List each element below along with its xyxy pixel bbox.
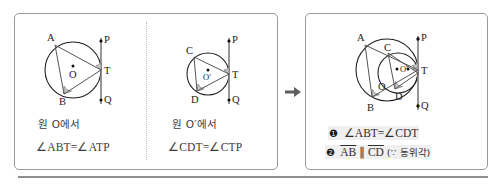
center-dot-o-prime bbox=[396, 68, 399, 71]
parallel-symbol: ∥ bbox=[359, 146, 365, 158]
caption-mid-line2: ∠CDT=∠CTP bbox=[168, 140, 242, 154]
arrow-right-icon bbox=[285, 86, 302, 98]
point-dot-p bbox=[227, 39, 230, 42]
label-a: A bbox=[357, 32, 365, 43]
label-q: Q bbox=[104, 94, 112, 105]
chord-at bbox=[55, 45, 101, 70]
label-c: C bbox=[384, 42, 391, 53]
caption-mid-line1-text: 원 O′에서 bbox=[172, 118, 217, 130]
bullet-2: ❷ bbox=[326, 147, 335, 158]
conclusion-2: ❷ AB ∥ CD (∵ 동위각) bbox=[325, 145, 431, 159]
label-t: T bbox=[232, 69, 239, 80]
label-center-o-prime: O′ bbox=[400, 64, 408, 74]
label-t: T bbox=[421, 65, 428, 76]
point-dot-p bbox=[99, 39, 102, 42]
arrow-right bbox=[285, 84, 302, 96]
caption-left-line1: 원 O에서 bbox=[38, 116, 81, 131]
point-dot-p bbox=[416, 37, 419, 40]
caption-left-line1-text: 원 O에서 bbox=[38, 118, 81, 130]
label-b: B bbox=[59, 96, 66, 107]
segment-cd: CD bbox=[368, 146, 384, 158]
diagram-combined: A B C D T P Q O O′ bbox=[340, 22, 465, 122]
label-p: P bbox=[232, 34, 238, 45]
conclusion-2-reason: (∵ 동위각) bbox=[387, 147, 430, 158]
caption-left-line2: ∠ABT=∠ATP bbox=[36, 140, 110, 154]
point-dot-q bbox=[99, 98, 102, 101]
label-center-o: O bbox=[378, 81, 386, 92]
conclusion-1-text: ∠ABT=∠CDT bbox=[344, 127, 419, 139]
chord-cd bbox=[194, 57, 197, 91]
conclusion-1: ❶ ∠ABT=∠CDT bbox=[328, 126, 419, 140]
diagram-circle-o-prime: C D T P Q O′ bbox=[168, 24, 278, 114]
figure-root: A B T P Q O 원 O에서 ∠ABT=∠ATP C D T P Q O′… bbox=[0, 0, 499, 185]
center-dot-o bbox=[72, 65, 75, 68]
label-a: A bbox=[47, 32, 55, 43]
label-q: Q bbox=[232, 94, 240, 105]
label-c: C bbox=[186, 45, 193, 56]
label-b: B bbox=[367, 102, 374, 113]
chord-ab bbox=[365, 45, 372, 97]
label-center-o-prime: O′ bbox=[203, 72, 211, 82]
label-t: T bbox=[104, 65, 111, 76]
footer-rule bbox=[18, 176, 488, 178]
label-d: D bbox=[395, 91, 403, 102]
point-dot-q bbox=[416, 104, 419, 107]
segment-ab: AB bbox=[340, 146, 356, 158]
chord-dt bbox=[197, 74, 229, 91]
label-d: D bbox=[191, 94, 199, 105]
point-dot-q bbox=[227, 98, 230, 101]
caption-mid-line1: 원 O′에서 bbox=[172, 116, 217, 131]
diagram-circle-o: A B T P Q O bbox=[34, 24, 144, 114]
panel-divider bbox=[146, 22, 147, 160]
chord-ab bbox=[55, 45, 64, 94]
label-center-o: O bbox=[69, 69, 77, 80]
label-p: P bbox=[104, 34, 110, 45]
label-p: P bbox=[421, 32, 427, 43]
label-q: Q bbox=[421, 100, 429, 111]
bullet-1: ❶ bbox=[329, 128, 338, 139]
